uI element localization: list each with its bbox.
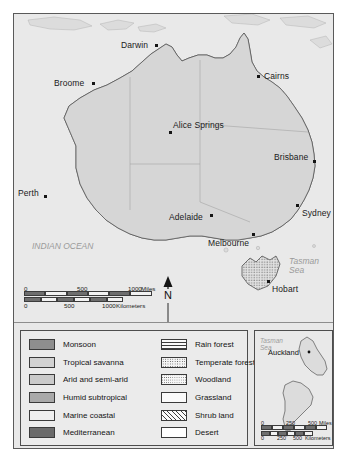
legend-label-humid-subtropical: Humid subtropical [63,393,127,402]
legend-swatch-tropical-savanna [29,357,55,368]
legend-item-tropical-savanna[interactable]: Tropical savanna [29,354,128,372]
legend-label-temperate-forest: Temperate forest [195,358,255,367]
legend-swatch-humid-subtropical [29,392,55,403]
legend-box: Monsoon Tropical savanna Arid and semi-a… [20,330,248,446]
map-scale-bar: 0 500 1000 Miles 0 500 1000 Kilometers [24,291,152,302]
city-label-darwin[interactable]: Darwin [121,40,148,50]
inset-scale-km-tick-0: 0 [261,435,264,441]
city-dot-adelaide [210,214,213,217]
city-label-brisbane[interactable]: Brisbane [274,152,308,162]
city-dot-hobart [267,280,270,283]
legend-item-desert[interactable]: Desert [161,424,255,442]
legend-label-arid-and-semi-arid: Arid and semi-arid [63,375,128,384]
legend-swatch-rain-forest [161,339,187,350]
legend-label-tropical-savanna: Tropical savanna [63,358,124,367]
legend-swatch-shrub-land [161,410,187,421]
legend-item-humid-subtropical[interactable]: Humid subtropical [29,389,128,407]
legend-swatch-arid-and-semi-arid [29,374,55,385]
legend-item-mediterranean[interactable]: Mediterranean [29,424,128,442]
city-label-adelaide[interactable]: Adelaide [169,212,203,222]
city-label-alice-springs[interactable]: Alice Springs [173,120,224,130]
scale-miles-unit: Miles [141,285,155,292]
city-dot-melbourne [252,233,255,236]
legend-column-vegetation: Rain forest Temperate forest Woodland Gr… [161,336,255,442]
australia-map-panel[interactable]: INDIAN OCEAN Tasman Sea Darwin Broome Ca… [14,14,333,322]
legend-item-shrub-land[interactable]: Shrub land [161,406,255,424]
legend-label-mediterranean: Mediterranean [63,428,115,437]
legend-label-marine-coastal: Marine coastal [63,411,115,420]
city-dot-auckland [308,351,311,354]
legend-swatch-marine-coastal [29,410,55,421]
city-label-hobart[interactable]: Hobart [272,284,298,294]
north-arrow: N [159,276,177,322]
legend-item-monsoon[interactable]: Monsoon [29,336,128,354]
city-label-melbourne[interactable]: Melbourne [208,238,249,248]
inset-scale-km-tick-500: 500 [293,435,302,441]
city-label-perth[interactable]: Perth [18,188,39,198]
legend-item-arid-and-semi-arid[interactable]: Arid and semi-arid [29,371,128,389]
north-arrow-label: N [159,289,177,301]
legend-label-desert: Desert [195,428,219,437]
inset-scale-miles-tick-500: 500 [308,420,317,426]
inset-scale-miles-row: 0 250 500 Miles [261,425,327,430]
inset-scale-miles-unit: Miles [319,420,332,426]
city-dot-perth [44,195,47,198]
inset-tasman-line1: Tasman [260,337,283,344]
inset-scale-kilometers-row: 0 250 500 Kilometers [261,431,327,436]
city-dot-brisbane [313,160,316,163]
city-label-broome[interactable]: Broome [54,78,84,88]
legend-label-grassland: Grassland [195,393,231,402]
city-dot-sydney [296,204,299,207]
scale-miles-tick-1000: 1000 [128,285,142,292]
scale-miles-tick-0: 0 [24,285,27,292]
inset-scale-km-tick-250: 250 [277,435,286,441]
map-legend-divider [14,322,333,323]
legend-item-woodland[interactable]: Woodland [161,371,255,389]
legend-swatch-monsoon [29,339,55,350]
city-dot-darwin [155,44,158,47]
legend-item-marine-coastal[interactable]: Marine coastal [29,406,128,424]
figure-page: INDIAN OCEAN Tasman Sea Darwin Broome Ca… [0,0,344,455]
legend-swatch-woodland [161,374,187,385]
scale-km-tick-500: 500 [64,302,74,309]
tasman-sea-label: Tasman Sea [289,257,319,275]
figure-frame: INDIAN OCEAN Tasman Sea Darwin Broome Ca… [13,13,334,449]
inset-scale-miles-tick-250: 250 [286,420,295,426]
legend-label-monsoon: Monsoon [63,340,96,349]
indian-ocean-label: INDIAN OCEAN [32,242,93,251]
legend-column-climate: Monsoon Tropical savanna Arid and semi-a… [29,336,128,442]
city-label-cairns[interactable]: Cairns [264,71,289,81]
legend-item-temperate-forest[interactable]: Temperate forest [161,354,255,372]
scale-miles-row: 0 500 1000 Miles [24,291,152,296]
scale-km-tick-0: 0 [24,302,27,309]
inset-scale-km-unit: Kilometers [305,435,330,441]
legend-item-grassland[interactable]: Grassland [161,389,255,407]
legend-swatch-mediterranean [29,427,55,438]
scale-km-tick-1000: 1000 [102,302,116,309]
scale-miles-tick-500: 500 [77,285,87,292]
tasman-sea-line2: Sea [289,265,304,275]
city-label-sydney[interactable]: Sydney [302,208,331,218]
city-dot-alice-springs [169,131,172,134]
legend-label-woodland: Woodland [195,375,231,384]
legend-label-rain-forest: Rain forest [195,340,234,349]
legend-swatch-grassland [161,392,187,403]
scale-km-unit: Kilometers [116,302,145,309]
inset-city-label-auckland[interactable]: Auckland [268,348,299,357]
inset-scale-miles-tick-0: 0 [261,420,264,426]
scale-kilometers-row: 0 500 1000 Kilometers [24,297,152,302]
legend-swatch-desert [161,427,187,438]
legend-item-rain-forest[interactable]: Rain forest [161,336,255,354]
legend-label-shrub-land: Shrub land [195,411,234,420]
new-zealand-inset-panel[interactable]: Tasman Sea Auckland 0 250 500 Miles [254,330,333,446]
legend-swatch-temperate-forest [161,357,187,368]
city-dot-cairns [257,75,260,78]
city-dot-broome [92,82,95,85]
inset-scale-bar: 0 250 500 Miles 0 250 500 Kilometers [261,425,327,436]
